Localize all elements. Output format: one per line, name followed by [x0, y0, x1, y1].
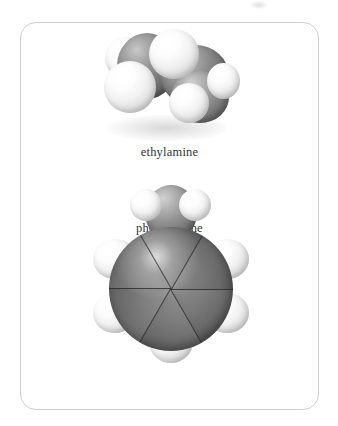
figure-root: ethylamine [0, 0, 338, 426]
ethylamine-hydrogen-lower-left [104, 61, 156, 113]
phenylamine-molecule-model [21, 183, 320, 378]
ethylamine-hydrogen-front [169, 83, 209, 123]
benzene-carbon-divider-3 [109, 288, 171, 289]
figure-panel: ethylamine [21, 23, 318, 409]
ethylamine-hydrogen-top [149, 29, 199, 79]
figure-frame: ethylamine [20, 22, 319, 410]
benzene-carbon-divider-0 [171, 289, 233, 290]
phenylamine-benzene-ring [109, 227, 233, 351]
scan-artifact-speck [250, 1, 268, 9]
ethylamine-molecule-model [21, 23, 320, 153]
ethylamine-hydrogen-right [207, 63, 240, 99]
phenylamine-amine-hydrogen-left [130, 189, 162, 221]
ethylamine-caption: ethylamine [21, 145, 318, 160]
phenylamine-amine-hydrogen-right [179, 189, 211, 221]
